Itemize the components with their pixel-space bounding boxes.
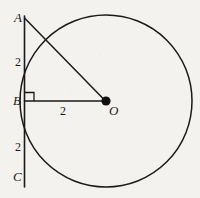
- label-length-bc: 2: [15, 141, 21, 153]
- label-length-ab: 2: [15, 56, 21, 68]
- label-point-a: A: [14, 11, 22, 24]
- line-segment-ao: [25, 18, 106, 101]
- label-length-bo: 2: [60, 105, 66, 117]
- label-point-c: C: [13, 170, 22, 183]
- label-point-b: B: [13, 94, 21, 107]
- label-point-o: O: [109, 104, 118, 117]
- right-angle-marker-icon: [25, 93, 34, 102]
- figure-canvas: [0, 0, 200, 198]
- geometry-figure: A B C O 2 2 2: [0, 0, 200, 198]
